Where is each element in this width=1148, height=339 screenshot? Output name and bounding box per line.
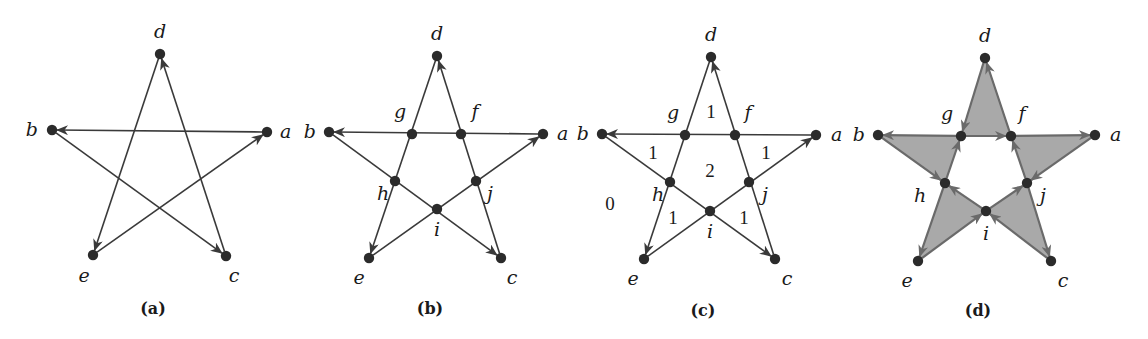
edge-e-a [648, 138, 812, 256]
node-j [1022, 178, 1032, 188]
edge-e-a [373, 137, 539, 255]
edge-b-c [56, 133, 222, 253]
node-label-a: a [280, 120, 291, 142]
node-label-h: h [652, 183, 664, 205]
node-c [221, 251, 231, 261]
node-label-i: i [983, 222, 989, 244]
node-d [155, 49, 165, 59]
node-label-g: g [394, 100, 406, 122]
node-f [730, 130, 740, 140]
node-b [47, 125, 57, 135]
pentagram-figure: dbaec(a) dbagfhjiec(b) dbagfhjiec1112011… [0, 0, 1148, 339]
panel-caption: (a) [140, 299, 166, 318]
node-label-d: d [979, 24, 991, 46]
panel-d: dbagfhjiec(d) [853, 24, 1122, 320]
edge-f-a [1016, 135, 1090, 136]
region-label: 0 [605, 193, 615, 214]
node-label-e: e [353, 266, 364, 288]
node-label-g: g [667, 101, 679, 123]
node-e [913, 256, 923, 266]
node-label-h: h [377, 182, 389, 204]
edge-c-d [162, 59, 225, 251]
shaded-triangle [961, 58, 1011, 136]
node-label-b: b [853, 123, 865, 145]
node-label-b: b [26, 118, 38, 140]
edge-a-b [334, 132, 538, 134]
edge-d-e [371, 61, 436, 254]
node-label-a: a [1110, 123, 1121, 145]
node-label-c: c [229, 264, 240, 286]
node-label-b: b [304, 120, 316, 142]
node-label-j: j [1036, 184, 1046, 206]
edge-a-b [57, 130, 262, 132]
node-i [705, 206, 715, 216]
node-label-a: a [557, 122, 568, 144]
panel-caption: (b) [417, 299, 443, 318]
panel-a: dbaec(a) [26, 20, 292, 318]
node-a [262, 127, 272, 137]
node-c [1046, 256, 1056, 266]
node-d [432, 51, 442, 61]
edge-d-e [95, 59, 159, 251]
node-label-e: e [627, 267, 638, 289]
node-label-i: i [434, 218, 440, 240]
node-b [324, 127, 334, 137]
edge-a-b [607, 134, 811, 135]
node-label-j: j [758, 183, 768, 205]
node-label-f: f [742, 101, 754, 123]
node-g [956, 131, 966, 141]
node-label-b: b [577, 122, 589, 144]
panel-c: dbagfhjiec1112011(c) [577, 23, 843, 320]
node-label-c: c [782, 267, 793, 289]
node-label-j: j [483, 182, 493, 204]
region-label: 2 [705, 160, 715, 181]
node-h [940, 178, 950, 188]
node-g [680, 130, 690, 140]
node-i [981, 206, 991, 216]
edge-e-a [97, 135, 263, 252]
node-h [665, 177, 675, 187]
region-label: 1 [648, 142, 658, 163]
panel-caption: (c) [691, 301, 716, 320]
region-label: 1 [668, 207, 678, 228]
node-label-d: d [154, 20, 166, 42]
node-h [390, 176, 400, 186]
node-label-d: d [705, 23, 717, 45]
node-j [744, 177, 754, 187]
node-label-c: c [1058, 269, 1069, 291]
node-f [1006, 131, 1016, 141]
node-label-g: g [941, 102, 953, 124]
node-c [496, 253, 506, 263]
node-label-i: i [707, 220, 713, 242]
region-label: 1 [761, 142, 771, 163]
panel-caption: (d) [965, 301, 991, 320]
node-label-d: d [431, 22, 443, 44]
node-b [873, 130, 883, 140]
shaded-triangle [918, 183, 986, 261]
node-b [597, 129, 607, 139]
edge-g-b [883, 135, 956, 136]
node-e [639, 254, 649, 264]
node-j [471, 176, 481, 186]
node-d [980, 53, 990, 63]
node-d [706, 52, 716, 62]
node-c [770, 254, 780, 264]
node-e [364, 253, 374, 263]
node-e [88, 250, 98, 260]
node-g [407, 129, 417, 139]
edge-b-c [333, 135, 497, 255]
edge-c-d [439, 61, 500, 253]
node-label-e: e [901, 269, 912, 291]
node-a [1090, 130, 1100, 140]
node-label-h: h [914, 184, 926, 206]
region-label: 1 [739, 207, 749, 228]
node-a [811, 130, 821, 140]
node-i [432, 204, 442, 214]
panel-b: dbagfhjiec(b) [304, 22, 569, 318]
node-label-a: a [831, 123, 842, 145]
edge-b-c [606, 137, 771, 256]
node-label-e: e [78, 264, 89, 286]
region-label: 1 [706, 101, 716, 122]
node-f [456, 129, 466, 139]
node-label-f: f [1016, 102, 1028, 124]
